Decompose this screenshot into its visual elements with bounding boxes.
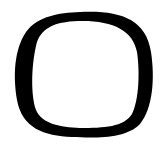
letter-o-icon [0, 0, 164, 151]
glyph-canvas: O [0, 0, 164, 151]
